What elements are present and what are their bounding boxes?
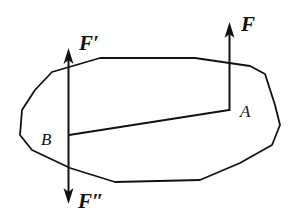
force-translation-diagram: F F′ F″ A B (0, 0, 295, 220)
label-F-double-prime: F″ (77, 189, 104, 213)
force-F-prime-arrow (64, 48, 74, 135)
label-F: F (240, 12, 255, 36)
label-point-A: A (239, 102, 251, 121)
force-F-arrow (225, 22, 235, 111)
lever-arm-line (69, 110, 229, 135)
label-F-prime: F′ (78, 31, 99, 55)
label-point-B: B (41, 130, 52, 149)
